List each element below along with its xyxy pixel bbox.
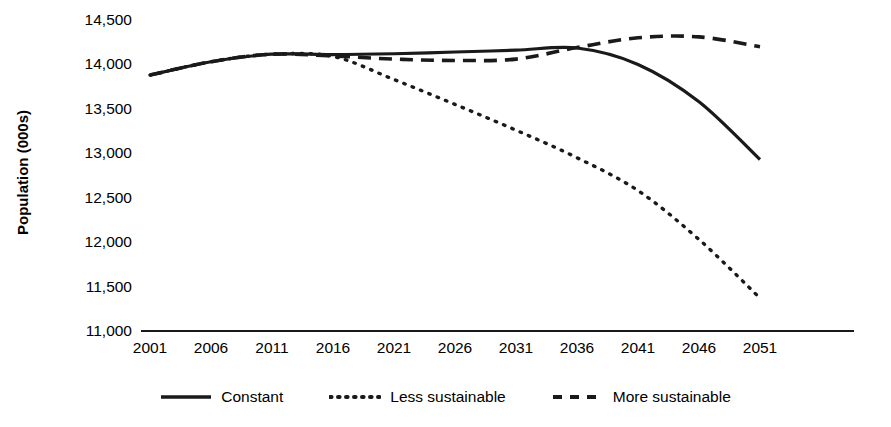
y-axis-title: Population (000s): [2, 0, 44, 345]
x-axis-tick-labels: 2001200620112016202120262031203620412046…: [140, 337, 862, 363]
y-tick-label: 12,000: [85, 234, 132, 250]
legend-item-label: More sustainable: [613, 388, 731, 406]
legend-item-label: Less sustainable: [390, 388, 505, 406]
y-axis-tick-labels: 11,00011,50012,00012,50013,00013,50014,0…: [44, 0, 140, 345]
legend-item-label: Constant: [221, 388, 283, 406]
x-axis-line: [141, 330, 854, 332]
legend-swatch-dotted-icon: [329, 391, 381, 403]
y-tick-label: 13,500: [85, 101, 132, 117]
population-projection-chart: Population (000s) 11,00011,50012,00012,5…: [0, 0, 891, 427]
series-line-less-sustainable: [150, 53, 760, 298]
x-tick-label: 2036: [560, 337, 594, 359]
y-tick-label: 11,500: [86, 279, 132, 295]
x-tick-label: 2001: [133, 337, 167, 359]
legend-swatch-dashed-icon: [552, 391, 604, 403]
x-tick-label: 2026: [438, 337, 472, 359]
series-line-more-sustainable: [150, 36, 760, 75]
y-axis-title-text: Population (000s): [15, 110, 32, 235]
x-tick-label: 2021: [377, 337, 411, 359]
legend-swatch-solid-icon: [160, 391, 212, 403]
legend-item-more-sustainable[interactable]: More sustainable: [552, 388, 731, 406]
x-tick-label: 2046: [682, 337, 716, 359]
y-tick-label: 14,000: [85, 56, 132, 72]
x-tick-label: 2006: [194, 337, 228, 359]
y-tick-label: 11,000: [86, 323, 132, 339]
x-tick-label: 2031: [499, 337, 533, 359]
y-tick-label: 12,500: [85, 190, 132, 206]
legend-item-constant[interactable]: Constant: [160, 388, 283, 406]
plot-area: [140, 20, 862, 331]
chart-legend: ConstantLess sustainableMore sustainable: [0, 380, 891, 414]
plot-lines: [140, 20, 862, 331]
y-tick-label: 14,500: [85, 12, 132, 28]
y-tick-label: 13,000: [85, 145, 132, 161]
x-tick-label: 2041: [621, 337, 655, 359]
x-tick-label: 2011: [255, 337, 288, 359]
legend-item-less-sustainable[interactable]: Less sustainable: [329, 388, 505, 406]
x-tick-label: 2051: [743, 337, 777, 359]
x-tick-label: 2016: [316, 337, 350, 359]
